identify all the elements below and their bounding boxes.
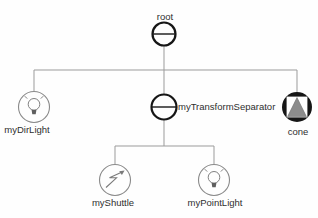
node-cone <box>282 92 312 122</box>
node-myShuttle <box>100 165 131 196</box>
node-label-myShuttle: myShuttle <box>92 198 134 208</box>
light-node-circle <box>19 92 50 123</box>
node-label-myPointLight: myPointLight <box>188 198 243 208</box>
engine-node-circle <box>100 165 131 196</box>
scene-graph-diagram: root myDirLight myTransformSeparator con… <box>0 0 318 218</box>
light-node-circle <box>199 165 230 196</box>
node-label-myTransformSeparator: myTransformSeparator <box>178 102 275 112</box>
node-myDirLight <box>19 92 50 123</box>
node-myTransformSeparator <box>152 95 177 120</box>
node-myPointLight <box>199 165 230 196</box>
node-root <box>153 23 176 46</box>
node-label-myDirLight: myDirLight <box>4 125 49 135</box>
node-label-cone: cone <box>288 127 309 137</box>
node-label-root: root <box>157 12 173 22</box>
